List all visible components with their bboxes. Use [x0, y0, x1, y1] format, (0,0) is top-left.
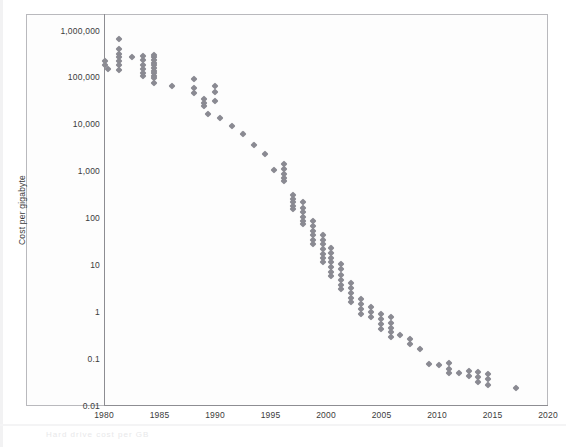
data-point-marker	[190, 76, 197, 83]
data-point-marker	[211, 97, 218, 104]
y-axis-tick-label: 0.01	[83, 401, 100, 411]
y-axis-tick-label: 10	[90, 260, 100, 270]
data-point-marker	[378, 325, 385, 332]
y-axis-tick-label: 10,000	[73, 119, 100, 129]
data-point-marker	[270, 167, 277, 174]
data-point-marker	[168, 82, 175, 89]
x-axis-tick-label: 1995	[261, 410, 281, 420]
data-point-marker	[299, 221, 306, 228]
x-axis-tick-label: 1980	[94, 410, 114, 420]
x-axis-tick-label: 2015	[483, 410, 503, 420]
chart-figure: Cost per gigabyte 1,000,000100,00010,000…	[0, 0, 566, 447]
data-point-marker	[338, 286, 345, 293]
x-axis-tick-label: 2000	[316, 410, 336, 420]
data-point-marker	[407, 340, 414, 347]
data-point-marker	[417, 345, 424, 352]
data-point-marker	[150, 79, 157, 86]
x-axis-tick-label: 1990	[205, 410, 225, 420]
data-point-marker	[328, 273, 335, 280]
data-point-marker	[466, 373, 473, 380]
y-axis-tick-label: 0.1	[88, 354, 100, 364]
data-point-marker	[348, 298, 355, 305]
data-point-marker	[397, 332, 404, 339]
data-point-marker	[139, 73, 146, 80]
data-point-marker	[426, 360, 433, 367]
data-point-marker	[436, 362, 443, 369]
data-point-marker	[105, 65, 112, 72]
data-point-marker	[211, 89, 218, 96]
data-point-marker	[116, 35, 123, 42]
y-axis-tick-label: 100	[85, 213, 100, 223]
data-point-marker	[474, 378, 481, 385]
data-point-marker	[190, 90, 197, 97]
y-axis-tick-label: 1,000,000	[60, 26, 100, 36]
data-point-marker	[368, 314, 375, 321]
x-axis-tick-label: 1985	[150, 410, 170, 420]
x-axis-tick-label: 2010	[427, 410, 447, 420]
y-axis-tick-label: 1	[95, 307, 100, 317]
y-axis-tick-labels: 1,000,000100,00010,0001,0001001010.10.01	[26, 0, 100, 447]
data-point-marker	[228, 123, 235, 130]
data-point-marker	[280, 178, 287, 185]
data-point-marker	[456, 369, 463, 376]
data-point-marker	[239, 130, 246, 137]
plot-area	[27, 15, 547, 405]
data-point-marker	[446, 370, 453, 377]
data-point-marker	[205, 111, 212, 118]
data-point-marker	[289, 206, 296, 213]
data-point-marker	[512, 384, 519, 391]
x-axis-tick-label: 2020	[538, 410, 558, 420]
x-axis-tick-labels: 198019851990199520002005201020152020	[0, 410, 566, 426]
data-point-marker	[358, 310, 365, 317]
data-point-marker	[484, 381, 491, 388]
data-point-marker	[250, 141, 257, 148]
data-point-marker	[128, 53, 135, 60]
data-point-marker	[388, 334, 395, 341]
y-axis-tick-label: 1,000	[78, 166, 100, 176]
x-axis-tick-label: 2005	[372, 410, 392, 420]
page-edge-left	[0, 0, 3, 447]
y-axis-line	[104, 14, 105, 405]
figure-caption: Hard drive cost per GB	[46, 430, 149, 439]
data-point-marker	[319, 259, 326, 266]
data-point-marker	[217, 115, 224, 122]
data-point-marker	[116, 67, 123, 74]
data-point-marker	[261, 151, 268, 158]
x-axis-line	[104, 405, 548, 406]
y-axis-tick-label: 100,000	[68, 72, 100, 82]
